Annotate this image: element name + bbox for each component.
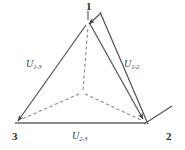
node-label-2: 2	[166, 131, 172, 142]
node-label-1: 1	[86, 1, 92, 12]
edge-label-1-2: U1-2	[124, 59, 139, 69]
dashed-interior-lines	[22, 26, 141, 120]
edge-label-2-3: U2-3	[72, 131, 87, 141]
edge-arrow-into-node-1	[89, 13, 101, 24]
edge-label-1-2-subscript: 1-2	[131, 63, 139, 70]
dashed-line-centroid-to-node-3	[22, 94, 79, 119]
node-label-3: 3	[12, 131, 18, 142]
vector-triangle-diagram: 1 2 3 U1-3 U1-2 U2-3	[0, 0, 185, 150]
edge-label-2-3-subscript: 2-3	[79, 135, 87, 142]
diagram-canvas	[0, 0, 185, 150]
edge-label-1-3-subscript: 1-3	[33, 63, 41, 70]
edge-line-1-3	[18, 25, 86, 121]
edge-label-1-3: U1-3	[26, 59, 41, 69]
dashed-line-centroid-to-node-2	[85, 94, 141, 120]
edge-extension-beyond-node-2	[144, 106, 172, 124]
edge-line-1-2-inner	[90, 24, 143, 119]
dashed-line-centroid-to-node-1	[83, 26, 88, 90]
